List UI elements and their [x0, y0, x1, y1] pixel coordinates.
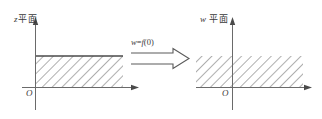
z-plane-plot — [22, 17, 139, 110]
w-plane-hatched-region — [196, 56, 303, 87]
w-plane-label: w 平面 — [200, 12, 228, 25]
z-plane-horizontal-axis-arrowhead — [131, 85, 139, 90]
w-plane-label-variable: w — [200, 14, 207, 24]
w-plane-horizontal-axis-arrowhead — [304, 85, 312, 90]
mapping-formula: w=f(0) — [131, 37, 154, 47]
z-plane-label: z平面 — [14, 12, 37, 25]
z-plane-hatched-region — [36, 56, 123, 87]
w-plane-label-text: 平面 — [209, 14, 228, 24]
z-plane-origin-label: O — [26, 88, 33, 98]
w-plane-plot — [196, 17, 312, 110]
complex-mapping-figure: z平面 w 平面 O O w=f(0) — [0, 0, 322, 119]
mapping-double-line-arrow — [131, 49, 189, 69]
z-plane-label-text: 平面 — [18, 14, 37, 24]
w-plane-origin-label: O — [222, 88, 229, 98]
mapping-formula-argument: (0) — [144, 37, 154, 47]
w-plane-vertical-axis-arrowhead — [230, 17, 235, 25]
figure-canvas — [0, 0, 322, 119]
mapping-arrow-group — [131, 49, 189, 69]
